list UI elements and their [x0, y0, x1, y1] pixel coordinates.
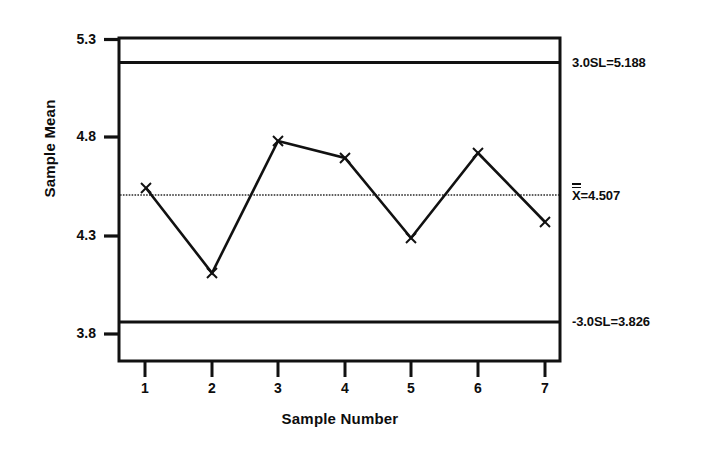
data-series-line: [146, 141, 545, 273]
data-point-2: [207, 268, 217, 278]
data-point-5: [406, 233, 416, 243]
lower-control-limit-label: -3.0SL=3.826: [572, 314, 650, 329]
x-axis-title: Sample Number: [160, 410, 520, 427]
data-point-7: [540, 217, 550, 227]
center-line-symbol: X: [572, 187, 581, 203]
y-axis-ticks: [104, 40, 119, 335]
x-tick-label-2: 2: [200, 380, 224, 396]
plot-frame: [119, 38, 560, 361]
control-chart: 5.3 4.8 4.3 3.8 1 2 3 4 5 6 7 Sample Mea…: [0, 0, 706, 450]
x-tick-label-1: 1: [133, 380, 157, 396]
x-tick-label-6: 6: [466, 380, 490, 396]
center-line-label: X=4.507: [572, 187, 620, 203]
x-tick-label-5: 5: [399, 380, 423, 396]
upper-control-limit-label: 3.0SL=5.188: [572, 55, 646, 70]
x-axis-ticks: [145, 361, 545, 377]
y-tick-label-0: 5.3: [50, 31, 96, 47]
data-point-markers: [141, 136, 550, 278]
center-line-value: =4.507: [581, 188, 621, 203]
x-tick-label-4: 4: [333, 380, 357, 396]
y-tick-label-3: 3.8: [50, 325, 96, 341]
x-tick-label-3: 3: [266, 380, 290, 396]
y-axis-title: Sample Mean: [41, 64, 58, 234]
x-tick-label-7: 7: [533, 380, 557, 396]
data-point-1: [141, 183, 151, 193]
data-point-6: [473, 148, 483, 158]
